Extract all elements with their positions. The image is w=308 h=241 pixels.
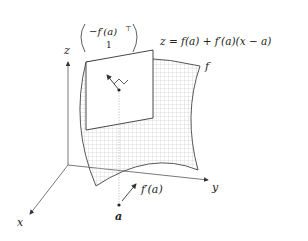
normal-vector-top: −f′(a) [89,26,117,37]
surface-label: f [204,60,211,73]
tangent-point [117,88,120,91]
tangent-plane-equation: z = f(a) + f′(a)(x − a) [159,35,271,47]
point-a [117,184,136,207]
z-axis-label: z [63,44,70,57]
tangent-plane-diagram: z y x −f′(a) ⊤ 1 z = f(a) + f′(a)(x − a)… [0,0,308,241]
transpose-symbol: ⊤ [125,25,132,33]
gradient-label: f′(a) [140,183,163,196]
normal-vector-bottom: 1 [106,40,112,50]
y-axis-label: y [211,181,219,194]
gradient-arrow [122,184,136,201]
normal-vector-column: −f′(a) ⊤ 1 [81,24,137,52]
point-a-label: a [115,210,122,223]
x-axis-label: x [17,216,24,229]
x-axis [30,165,68,214]
